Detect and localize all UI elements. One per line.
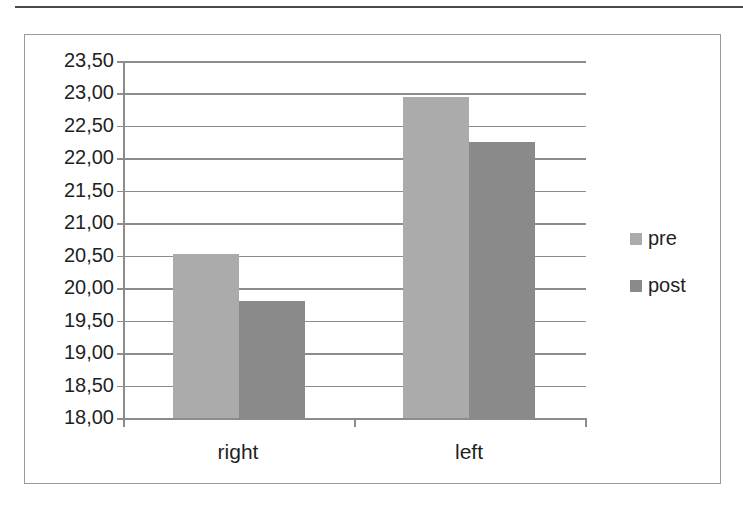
y-axis [123, 61, 125, 427]
chart-frame [24, 34, 721, 484]
y-tick-label: 18,50 [14, 375, 114, 395]
gridline [117, 93, 586, 95]
bar-post-right [239, 301, 305, 418]
x-label-left: left [409, 440, 529, 464]
y-tick-label: 20,50 [14, 245, 114, 265]
bar-post-left [469, 142, 535, 418]
y-tick-label: 22,00 [14, 147, 114, 167]
legend-swatch-pre [630, 233, 642, 245]
header-rule [15, 6, 743, 8]
y-tick-label: 22,50 [14, 115, 114, 135]
y-tick-label: 19,50 [14, 310, 114, 330]
y-tick-label: 21,50 [14, 180, 114, 200]
legend-item-post: post [630, 274, 686, 297]
bar-pre-right [173, 254, 239, 418]
gridline [117, 126, 586, 128]
legend-label-post: post [648, 274, 686, 297]
x-label-right: right [178, 440, 298, 464]
y-tick-label: 19,00 [14, 342, 114, 362]
y-tick-label: 23,50 [14, 50, 114, 70]
bar-pre-left [403, 97, 469, 418]
legend-item-pre: pre [630, 227, 677, 250]
y-tick-label: 20,00 [14, 277, 114, 297]
gridline [117, 418, 586, 420]
legend-label-pre: pre [648, 227, 677, 250]
y-tick-label: 18,00 [14, 407, 114, 427]
gridline [117, 61, 586, 63]
legend-swatch-post [630, 280, 642, 292]
y-tick-label: 23,00 [14, 82, 114, 102]
y-tick-label: 21,00 [14, 212, 114, 232]
